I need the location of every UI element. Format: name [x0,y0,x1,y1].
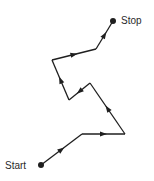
direction-arrow-icon [59,77,64,84]
path-segments [41,21,125,165]
start-point [38,162,44,168]
stop-label: Stop [121,15,142,26]
direction-arrow-icon [100,32,106,39]
stop-point [110,18,116,24]
direction-arrow-icon [100,131,107,136]
path-diagram: Start Stop [0,0,154,181]
direction-arrow-icon [70,53,77,58]
direction-arrow-icon [106,106,112,113]
start-label: Start [5,160,26,171]
